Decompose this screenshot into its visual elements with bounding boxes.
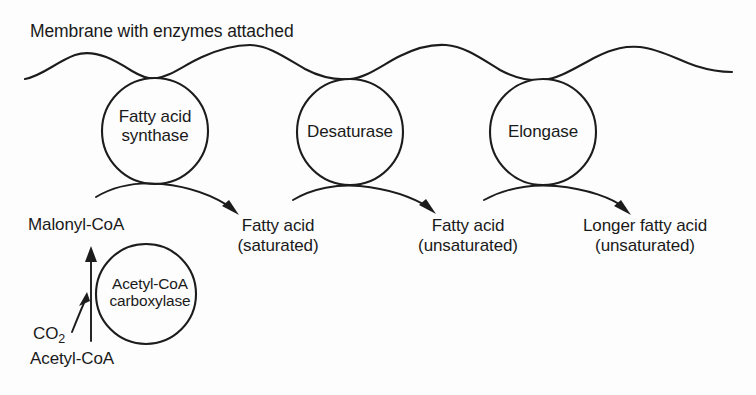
product-label-fatty-acid-unsaturated: Fatty acid (unsaturated) [373,216,563,256]
enzyme-label-line-1: Elongase [483,122,603,141]
product-label-fatty-acid-saturated: Fatty acid (saturated) [188,216,368,256]
arrow-elongase-to-longer [484,186,625,208]
substrate-label-co2: CO2 [33,325,65,343]
product-label-line-1: Longer fatty acid [540,216,750,236]
enzyme-label-acetyl-coa-carboxylase: Acetyl-CoA carboxylase [94,276,206,310]
product-label-line-1: Fatty acid [188,216,368,236]
substrate-label-acetyl-coa: Acetyl-CoA [30,350,114,368]
arrow-desaturase-to-unsaturated-head [419,199,436,214]
arrow-co2-entry [72,303,84,332]
enzyme-label-line-2: carboxylase [94,293,206,310]
enzyme-label-line-1: Desaturase [290,122,410,141]
product-label-line-2: (unsaturated) [540,236,750,256]
enzyme-label-line-1: Acetyl-CoA [94,276,206,293]
membrane-wavy-line [25,45,732,80]
enzyme-label-fatty-acid-synthase: Fatty acid synthase [100,107,210,145]
fatty-acid-synthesis-diagram: Membrane with enzymes attached Fatty aci… [0,0,756,395]
product-label-line-2: (saturated) [188,236,368,256]
enzyme-label-elongase: Elongase [483,122,603,141]
co2-text: CO [33,324,58,343]
enzyme-label-line-1: Fatty acid [100,107,210,126]
page-title: Membrane with enzymes attached [30,22,294,41]
product-label-longer-fatty-acid-unsaturated: Longer fatty acid (unsaturated) [540,216,750,256]
arrow-acetylcoa-to-malonylcoa-head [85,246,97,262]
arrow-synthase-to-saturated-head [222,200,239,215]
enzyme-label-line-2: synthase [100,126,210,145]
enzyme-label-desaturase: Desaturase [290,122,410,141]
arrow-synthase-to-saturated [96,183,233,209]
substrate-label-malonyl-coa: Malonyl-CoA [28,216,124,234]
arrow-desaturase-to-unsaturated [293,186,430,208]
diagram-canvas [0,0,756,395]
co2-subscript: 2 [58,332,65,346]
product-label-line-1: Fatty acid [373,216,563,236]
product-label-line-2: (unsaturated) [373,236,563,256]
